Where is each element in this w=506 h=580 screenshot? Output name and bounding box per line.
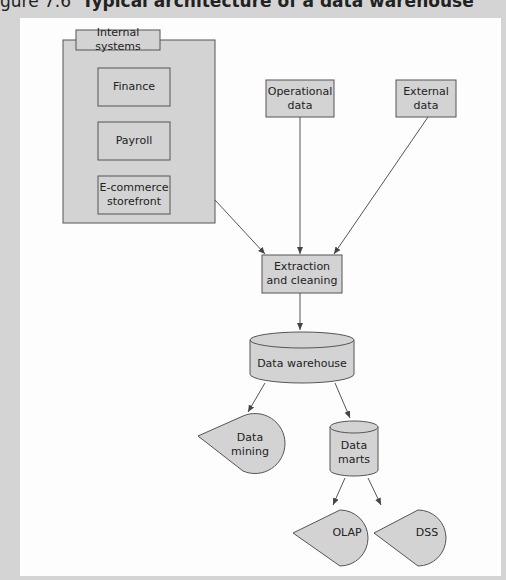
dss-label: DSS — [402, 523, 452, 543]
operational-label: Operational data — [266, 80, 334, 117]
internal-systems-label: Internal systems — [76, 30, 160, 50]
payroll-label: Payroll — [98, 122, 170, 160]
olap-label: OLAP — [322, 523, 372, 543]
extraction-label: Extraction and cleaning — [262, 255, 342, 293]
external-label: External data — [396, 80, 456, 117]
finance-label: Finance — [98, 68, 170, 106]
mining-label: Data mining — [225, 425, 275, 465]
marts-label: Data marts — [330, 433, 378, 473]
warehouse-label: Data warehouse — [250, 350, 354, 378]
ecommerce-label: E-commerce storefront — [98, 176, 170, 214]
